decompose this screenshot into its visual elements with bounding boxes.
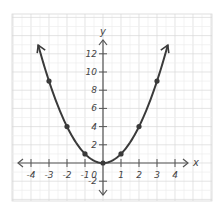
data-point (136, 124, 141, 129)
x-tick-label: 1 (118, 170, 124, 180)
data-point (46, 79, 51, 84)
parabola-chart: xy -4-3-2-11234-2246810120 (0, 0, 221, 212)
data-point (154, 79, 159, 84)
x-tick-label: -2 (63, 170, 72, 180)
y-tick-label: 8 (91, 85, 97, 95)
grid (12, 14, 212, 201)
data-point (118, 151, 123, 156)
data-point (100, 160, 105, 165)
y-axis-label: y (99, 26, 107, 37)
x-axis-label: x (192, 157, 199, 168)
data-point (82, 151, 87, 156)
y-tick-label: 2 (91, 140, 97, 150)
x-tick-label: -3 (45, 170, 54, 180)
y-tick-label: 10 (86, 67, 98, 77)
y-tick-label: 12 (86, 49, 98, 59)
origin-label: 0 (91, 170, 97, 180)
x-tick-label: -4 (27, 170, 36, 180)
x-tick-label: 4 (172, 170, 178, 180)
x-tick-label: 2 (136, 170, 142, 180)
y-tick-label: 4 (91, 122, 97, 132)
y-tick-label: 6 (91, 103, 97, 113)
x-tick-label: 3 (154, 170, 160, 180)
data-point (64, 124, 69, 129)
